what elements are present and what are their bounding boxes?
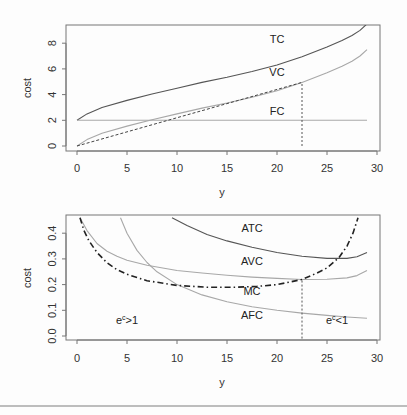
x-tick-label: 15 — [221, 162, 233, 174]
y-axis-title: cost — [21, 78, 33, 98]
page-divider — [0, 405, 407, 407]
curves — [77, 24, 367, 146]
x-tick-label: 20 — [271, 162, 283, 174]
y-tick-label: 8 — [46, 40, 58, 46]
x-tick-label: 30 — [371, 352, 383, 364]
label-e-1: ec>1 — [116, 314, 138, 326]
x-tick-label: 20 — [271, 352, 283, 364]
y-tick-label: 2 — [46, 117, 58, 123]
x-tick-label: 0 — [74, 162, 80, 174]
label-avc: AVC — [241, 255, 263, 267]
bottom-panel-unit-costs: 051015202530 0.00.10.20.30.4 ATCAVCMCAFC… — [21, 215, 383, 388]
label-atc: ATC — [241, 222, 262, 234]
curve-tc — [77, 24, 367, 120]
curve-avc — [80, 218, 367, 280]
label-tc: TC — [270, 33, 285, 45]
label-e-1: ec<1 — [326, 314, 348, 326]
y-tick-label: 0.3 — [46, 251, 58, 266]
x-tick-label: 25 — [321, 162, 333, 174]
x-tick-label: 10 — [171, 162, 183, 174]
y-tick-label: 0.1 — [46, 303, 58, 318]
x-tick-label: 5 — [124, 162, 130, 174]
x-tick-label: 25 — [321, 352, 333, 364]
x-axis-title: y — [219, 186, 225, 198]
y-tick-label: 4 — [46, 92, 58, 98]
label-mc: MC — [243, 285, 260, 297]
x-tick-label: 0 — [74, 352, 80, 364]
x-tick-label: 5 — [124, 352, 130, 364]
ray-from-origin — [77, 82, 302, 146]
x-axis: 051015202530 — [74, 340, 383, 364]
y-tick-label: 6 — [46, 66, 58, 72]
x-axis-title: y — [219, 376, 225, 388]
label-afc: AFC — [241, 309, 263, 321]
x-tick-label: 15 — [221, 352, 233, 364]
curve-mc — [80, 218, 358, 287]
label-fc: FC — [270, 105, 285, 117]
y-tick-label: 0.0 — [46, 328, 58, 343]
curve-labels: TCVCFC — [269, 33, 284, 117]
cost-curves-figure: 051015202530 02468 TCVCFC y cost 0510152… — [0, 0, 407, 415]
x-tick-label: 10 — [171, 352, 183, 364]
curve-atc — [172, 218, 367, 259]
curve-vc — [77, 50, 367, 146]
x-axis: 051015202530 — [74, 151, 383, 174]
y-axis: 0.00.10.20.30.4 — [46, 226, 66, 344]
plot-frame — [66, 25, 380, 151]
y-tick-label: 0.2 — [46, 277, 58, 292]
label-vc: VC — [269, 66, 284, 78]
top-panel-total-costs: 051015202530 02468 TCVCFC y cost — [21, 24, 383, 198]
y-axis: 02468 — [46, 40, 66, 149]
y-tick-label: 0.4 — [46, 226, 58, 241]
x-tick-label: 30 — [371, 162, 383, 174]
y-tick-label: 0 — [46, 143, 58, 149]
y-axis-title: cost — [21, 268, 33, 288]
